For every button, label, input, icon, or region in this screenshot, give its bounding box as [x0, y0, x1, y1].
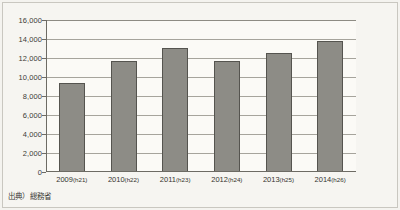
gridline — [46, 153, 356, 154]
y-axis-tick-label: 4,000 — [0, 130, 42, 139]
bar-chart: 16,00014,00012,00010,0008,0006,0004,0002… — [0, 0, 400, 185]
x-axis-tick-label: 2014(h26) — [304, 175, 356, 184]
bar — [59, 83, 85, 172]
bar — [266, 53, 292, 172]
y-axis-tick-label: 6,000 — [0, 111, 42, 120]
y-axis-tick-label: 8,000 — [0, 92, 42, 101]
x-label-year: 2013 — [263, 175, 280, 184]
x-label-era: (h22) — [125, 176, 139, 183]
x-label-year: 2014 — [315, 175, 332, 184]
x-axis-tick-label: 2009(h21) — [46, 175, 98, 184]
bar — [214, 61, 240, 172]
x-axis-line — [46, 171, 356, 172]
y-axis-tick — [42, 115, 46, 116]
x-axis-tick-label: 2010(h22) — [98, 175, 150, 184]
y-axis-tick — [42, 96, 46, 97]
y-axis-tick — [42, 58, 46, 59]
gridline — [46, 20, 356, 21]
gridline — [46, 39, 356, 40]
x-label-year: 2011 — [160, 175, 176, 184]
y-axis-tick-label: 10,000 — [0, 73, 42, 82]
plot-area — [46, 20, 356, 172]
chart-page: 16,00014,00012,00010,0008,0006,0004,0002… — [0, 0, 400, 210]
y-axis-tick — [42, 39, 46, 40]
x-label-year: 2012 — [211, 175, 228, 184]
y-axis-tick-label: 2,000 — [0, 149, 42, 158]
bar — [317, 41, 343, 172]
y-axis-tick — [42, 134, 46, 135]
x-label-era: (h23) — [176, 176, 190, 183]
y-axis-tick-label: 0 — [0, 168, 42, 177]
x-axis-tick-label: 2012(h24) — [201, 175, 253, 184]
source-note: 出典）総務省 — [8, 190, 51, 201]
gridline — [46, 77, 356, 78]
x-axis-tick-label: 2013(h25) — [253, 175, 305, 184]
y-axis-tick — [42, 77, 46, 78]
gridline — [46, 134, 356, 135]
gridline — [46, 115, 356, 116]
bar — [162, 48, 188, 172]
y-axis-tick — [42, 153, 46, 154]
y-axis-tick — [42, 172, 46, 173]
y-axis-tick-label: 16,000 — [0, 16, 42, 25]
y-axis-tick-label: 12,000 — [0, 54, 42, 63]
x-label-year: 2010 — [108, 175, 125, 184]
x-label-era: (h24) — [228, 176, 242, 183]
bar — [111, 61, 137, 172]
gridline — [46, 58, 356, 59]
x-axis-tick-label: 2011(h23) — [149, 175, 201, 184]
y-axis-tick — [42, 20, 46, 21]
x-label-era: (h21) — [73, 176, 87, 183]
y-axis-tick-label: 14,000 — [0, 35, 42, 44]
x-label-era: (h26) — [331, 176, 345, 183]
y-axis-line — [46, 20, 47, 172]
x-label-era: (h25) — [280, 176, 294, 183]
gridline — [46, 96, 356, 97]
x-label-year: 2009 — [56, 175, 73, 184]
